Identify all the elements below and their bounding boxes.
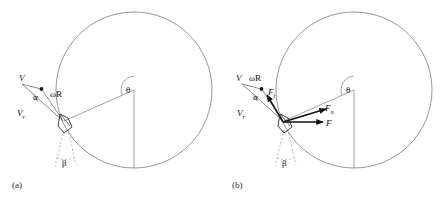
tip-speed-label: ωR (50, 89, 62, 99)
force-resultant-label: F (326, 118, 332, 128)
velocity-label: V (19, 73, 25, 83)
beta-line-right (288, 129, 296, 165)
force-tangential-label: Ft (268, 87, 275, 99)
beta-label: β (62, 158, 67, 168)
relative-velocity-label: Vr (17, 108, 25, 120)
tip-speed-label: ωR (249, 73, 261, 83)
beta-line-right (68, 129, 76, 165)
beta-label: β (282, 158, 287, 168)
theta-label: θ (346, 85, 350, 95)
panel-a-caption: (a) (12, 180, 22, 190)
radius-to-blade (64, 90, 134, 121)
force-normal-label: Fn (325, 103, 334, 115)
panel-b-caption: (b) (232, 180, 243, 190)
radius-to-blade (284, 90, 354, 121)
alpha-label: α (33, 92, 38, 102)
velocity-label: V (236, 73, 242, 83)
figure-container: V Vr ωR α β θ (a) (0, 0, 440, 203)
theta-label: θ (126, 85, 130, 95)
panel-a: V Vr ωR α β θ (a) (0, 0, 220, 203)
alpha-label: α (253, 92, 258, 102)
force-normal-vector (283, 109, 326, 122)
relative-velocity-label: Vr (237, 108, 245, 120)
panel-b: V ωR Vr α Ft Fn F β θ (b) (220, 0, 440, 203)
